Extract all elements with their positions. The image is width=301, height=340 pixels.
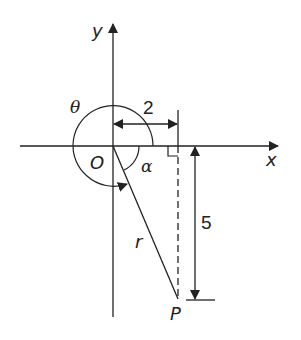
right-angle-marker bbox=[168, 146, 178, 156]
x-axis-label: x bbox=[265, 149, 277, 170]
dimension-label-vertical: 5 bbox=[201, 212, 212, 233]
theta-label: θ bbox=[70, 97, 80, 117]
alpha-arc bbox=[124, 146, 139, 170]
point-label: P bbox=[170, 303, 181, 324]
y-axis-label: y bbox=[91, 20, 103, 41]
alpha-label: α bbox=[141, 156, 153, 176]
polar-diagram: y x O θ α 2 5 r P bbox=[0, 0, 301, 340]
dimension-label-horizontal: 2 bbox=[143, 97, 154, 118]
origin-label: O bbox=[90, 152, 104, 173]
radius-label: r bbox=[135, 231, 144, 252]
